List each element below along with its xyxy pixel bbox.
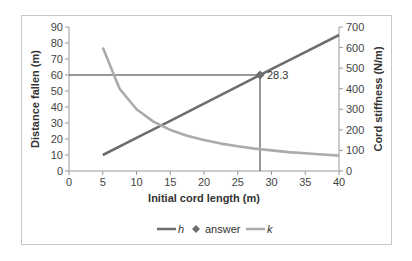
x-tick-label: 0 [66,176,72,188]
y2-tick-label: 200 [346,124,364,136]
legend-k-label: k [267,223,273,235]
y2-tick-label: 700 [346,21,364,33]
x-tick-label: 15 [164,176,176,188]
y-axis-title: Distance fallen (m) [29,50,41,148]
y-tick-label: 60 [51,69,63,81]
y2-tick-label: 400 [346,83,364,95]
x-tick-label: 35 [299,176,311,188]
x-tick-label: 40 [333,176,345,188]
y-tick-label: 0 [57,165,63,177]
y-tick-label: 50 [51,85,63,97]
y2-tick-label: 500 [346,62,364,74]
x-axis-title: Initial cord length (m) [148,192,260,204]
legend: h answer k [157,223,273,235]
legend-diamond-icon [192,225,200,233]
legend-answer-label: answer [205,223,241,235]
legend-item-h[interactable]: h [157,223,184,235]
y2-tick-label: 0 [346,165,352,177]
legend-item-k[interactable]: k [246,223,273,235]
series-k-line [103,48,339,156]
y-tick-label: 30 [51,117,63,129]
x-tick-label: 20 [198,176,210,188]
x-tick-label: 25 [232,176,244,188]
y-tick-label: 40 [51,101,63,113]
legend-item-answer[interactable]: answer [192,223,241,235]
y2-tick-label: 100 [346,144,364,156]
x-tick-label: 10 [130,176,142,188]
legend-h-label: h [178,223,184,235]
y-tick-label: 70 [51,53,63,65]
chart-canvas: 0510152025303540010203040506070809001002… [0,0,412,261]
y-tick-label: 10 [51,149,63,161]
y2-tick-label: 600 [346,42,364,54]
y2-axis-title: Cord stiffness (N/m) [372,46,384,151]
y-tick-label: 80 [51,37,63,49]
x-tick-label: 30 [265,176,277,188]
y-tick-label: 20 [51,133,63,145]
y2-tick-label: 300 [346,103,364,115]
answer-marker-icon [256,71,265,80]
answer-value-label: 28.3 [267,69,288,81]
series-h-line [103,35,339,155]
series [103,35,339,156]
y-tick-label: 90 [51,21,63,33]
x-tick-label: 5 [100,176,106,188]
